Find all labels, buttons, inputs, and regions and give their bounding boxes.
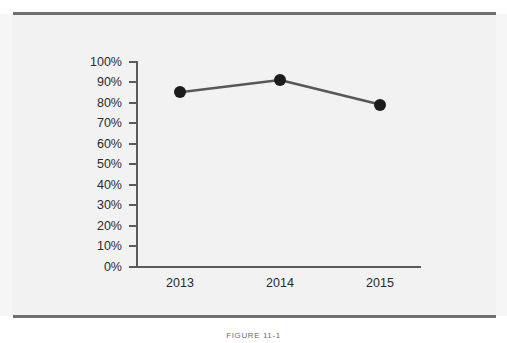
data-point-marker bbox=[274, 74, 286, 86]
figure-caption: FIGURE 11-1 bbox=[0, 332, 507, 343]
figure-panel: 0%10%20%30%40%50%60%70%80%90%100% 201320… bbox=[0, 0, 507, 320]
data-point-marker bbox=[374, 99, 386, 111]
line-chart: 0%10%20%30%40%50%60%70%80%90%100% 201320… bbox=[0, 0, 507, 320]
series-line bbox=[0, 0, 507, 320]
